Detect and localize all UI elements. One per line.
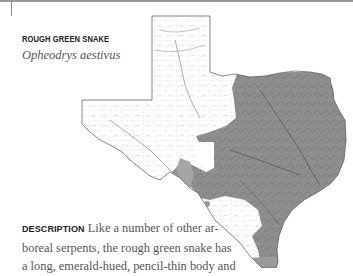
- description-line-3: a long, emerald-hued, pencil-thin body a…: [22, 257, 322, 276]
- description-label: DESCRIPTION: [22, 224, 85, 234]
- description-text-1: Like a number of other ar-: [85, 221, 219, 235]
- description-line-1: DESCRIPTION Like a number of other ar-: [22, 219, 322, 239]
- description: DESCRIPTION Like a number of other ar- b…: [22, 219, 322, 276]
- description-line-2: boreal serpents, the rough green snake h…: [22, 239, 322, 258]
